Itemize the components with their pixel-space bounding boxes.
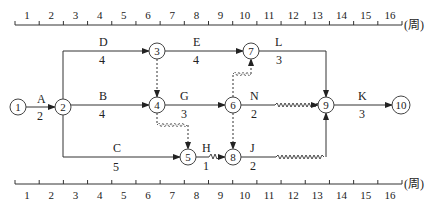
activity-L: L 3 [259, 35, 326, 97]
bottom-unit-label: (周) [404, 177, 424, 191]
node-1: 1 [10, 99, 26, 115]
activity-B: B 4 [71, 89, 149, 121]
scale-tick-label: 6 [145, 9, 151, 21]
scale-tick-label: 9 [218, 189, 224, 201]
node-7-label: 7 [248, 45, 254, 57]
node-6: 6 [225, 97, 241, 113]
node-2-label: 2 [60, 101, 66, 113]
activity-B-duration: 4 [99, 107, 105, 121]
node-5: 5 [180, 149, 196, 165]
activity-E-name: E [193, 35, 200, 49]
activity-A-duration: 2 [37, 109, 43, 123]
activity-H: H 1 [196, 141, 225, 173]
dummy-6-7 [233, 59, 251, 97]
scale-tick-label: 12 [288, 189, 299, 201]
scale-tick-label: 4 [97, 9, 103, 21]
scale-tick-label: 14 [336, 189, 348, 201]
scale-tick-label: 3 [73, 9, 79, 21]
scale-tick-label: 13 [312, 189, 324, 201]
scale-tick-label: 5 [121, 9, 127, 21]
activity-G: G 3 [165, 89, 225, 121]
activity-H-duration: 1 [203, 159, 209, 173]
node-4: 4 [149, 97, 165, 113]
scale-tick-label: 10 [239, 189, 251, 201]
activity-J-duration: 2 [250, 159, 256, 173]
scale-tick-label: 15 [360, 9, 372, 21]
scale-tick-label: 5 [121, 189, 127, 201]
scale-tick-label: 2 [49, 189, 55, 201]
activity-D-name: D [99, 35, 108, 49]
activity-G-duration: 3 [181, 107, 187, 121]
activity-B-name: B [99, 89, 107, 103]
scale-tick-label: 16 [384, 189, 396, 201]
node-6-label: 6 [230, 99, 236, 111]
activity-L-name: L [275, 35, 282, 49]
activity-A-name: A [37, 92, 46, 106]
scale-tick-label: 3 [73, 189, 79, 201]
node-1-label: 1 [15, 101, 21, 113]
scale-tick-label: 8 [194, 189, 200, 201]
activity-G-name: G [180, 89, 189, 103]
scale-tick-label: 7 [169, 9, 175, 21]
activity-L-duration: 3 [276, 53, 282, 67]
scale-tick-label: 4 [97, 189, 103, 201]
node-9: 9 [318, 97, 334, 113]
node-9-label: 9 [323, 99, 329, 111]
scale-tick-label: 13 [312, 9, 324, 21]
scale-tick-label: 16 [384, 9, 396, 21]
activity-J-name: J [250, 141, 255, 155]
activity-K-duration: 3 [359, 107, 365, 121]
node-2: 2 [55, 99, 71, 115]
activity-A: A 2 [26, 92, 55, 123]
activity-J: J 2 [241, 113, 326, 173]
activity-K-name: K [358, 89, 367, 103]
node-3: 3 [149, 43, 165, 59]
node-10: 10 [392, 96, 410, 114]
node-8-label: 8 [230, 151, 236, 163]
node-10-label: 10 [396, 99, 408, 111]
activity-N: N 2 [241, 89, 319, 121]
scale-tick-label: 7 [169, 189, 175, 201]
scale-tick-label: 2 [49, 9, 55, 21]
top-time-scale: 12345678910111213141516 (周) [15, 9, 424, 32]
scale-tick-label: 11 [264, 189, 275, 201]
node-3-label: 3 [154, 45, 160, 57]
scale-tick-label: 11 [264, 9, 275, 21]
scale-tick-label: 1 [24, 9, 30, 21]
network-diagram: 12345678910111213141516 (周) 123456789101… [0, 0, 440, 211]
scale-tick-label: 1 [24, 189, 30, 201]
activity-K: K 3 [334, 89, 392, 121]
activity-N-duration: 2 [251, 107, 257, 121]
node-4-label: 4 [154, 99, 160, 111]
scale-tick-label: 15 [360, 189, 372, 201]
activity-H-name: H [202, 141, 211, 155]
activity-D-duration: 4 [99, 53, 105, 67]
scale-tick-label: 12 [288, 9, 299, 21]
scale-tick-label: 8 [194, 9, 200, 21]
activity-N-name: N [250, 89, 259, 103]
bottom-time-scale: 12345678910111213141516 (周) [15, 177, 424, 201]
node-7: 7 [243, 43, 259, 59]
scale-tick-label: 6 [145, 189, 151, 201]
activity-E: E 4 [165, 35, 243, 67]
activity-C-name: C [113, 141, 121, 155]
activity-C-duration: 5 [113, 160, 119, 174]
node-8: 8 [225, 149, 241, 165]
activity-E-duration: 4 [193, 53, 199, 67]
scale-tick-label: 14 [336, 9, 348, 21]
scale-tick-label: 9 [218, 9, 224, 21]
top-unit-label: (周) [404, 18, 424, 32]
node-5-label: 5 [185, 151, 191, 163]
scale-tick-label: 10 [239, 9, 251, 21]
